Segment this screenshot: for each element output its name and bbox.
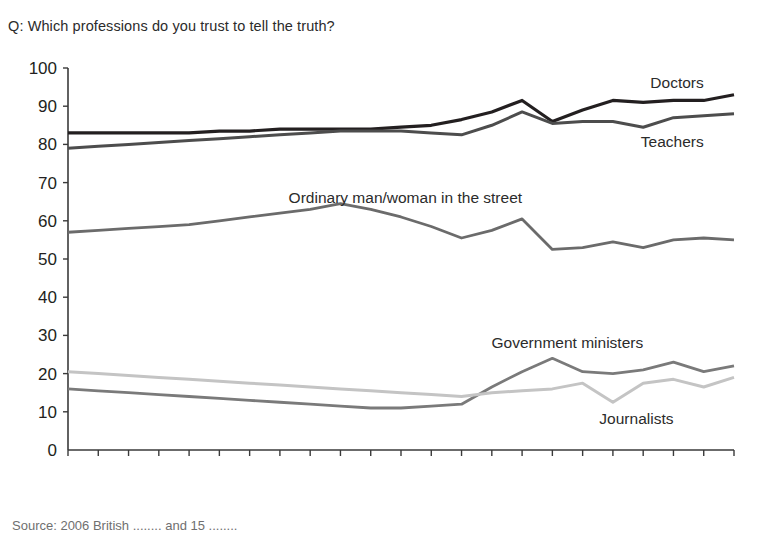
chart-area: 0102030405060708090100 19831984198519861… (0, 52, 757, 462)
series-label: Ordinary man/woman in the street (289, 189, 523, 206)
y-tick-label: 10 (38, 403, 57, 422)
series-line (68, 358, 734, 408)
series-line (68, 372, 734, 403)
series-line (68, 204, 734, 250)
series-label: Government ministers (492, 334, 644, 351)
source-note: Source: 2006 British ........ and 15 ...… (12, 518, 237, 534)
y-tick-label: 90 (38, 97, 57, 116)
y-tick-label: 0 (48, 441, 57, 460)
data-series-group (68, 95, 734, 408)
series-line (68, 95, 734, 133)
series-label: Doctors (650, 74, 704, 91)
series-label: Teachers (641, 133, 704, 150)
series-label: Journalists (599, 410, 673, 427)
series-line (68, 112, 734, 148)
y-tick-label: 30 (38, 326, 57, 345)
y-axis-ticks: 0102030405060708090100 (29, 59, 68, 460)
y-tick-label: 40 (38, 288, 57, 307)
y-tick-label: 80 (38, 135, 57, 154)
x-axis-ticks: 1983198419851986198719881989199019911992… (60, 450, 743, 462)
y-tick-label: 100 (29, 59, 57, 78)
y-tick-label: 70 (38, 174, 57, 193)
y-tick-label: 20 (38, 365, 57, 384)
y-tick-label: 50 (38, 250, 57, 269)
line-chart: 0102030405060708090100 19831984198519861… (0, 52, 757, 462)
y-tick-label: 60 (38, 212, 57, 231)
chart-question: Q: Which professions do you trust to tel… (8, 18, 335, 34)
